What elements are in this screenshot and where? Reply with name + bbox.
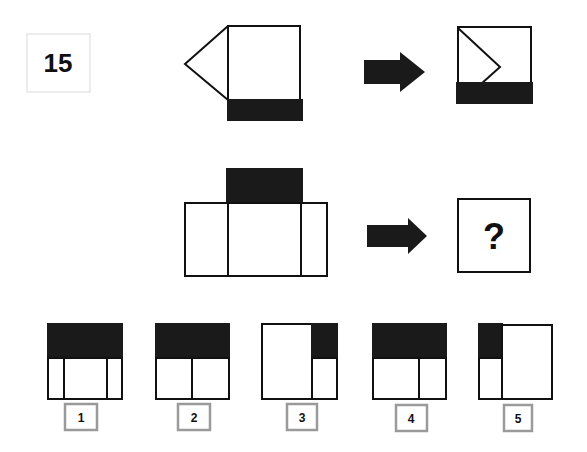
option-label: 5 xyxy=(515,412,522,426)
option-label: 3 xyxy=(299,411,306,425)
option-4[interactable]: 4 xyxy=(373,324,446,431)
option-1[interactable]: 1 xyxy=(48,324,122,430)
example-result-figure xyxy=(457,27,532,103)
puzzle-canvas: 15 ? 1 xyxy=(0,0,587,452)
answer-placeholder-box: ? xyxy=(458,199,530,272)
option-label: 2 xyxy=(191,411,198,425)
question-number: 15 xyxy=(44,48,73,78)
example-source-figure xyxy=(185,26,302,120)
option-2[interactable]: 2 xyxy=(156,324,229,430)
arrow-right-icon xyxy=(364,52,425,92)
option-5[interactable]: 5 xyxy=(479,324,552,431)
option-3[interactable]: 3 xyxy=(262,324,337,430)
question-mark: ? xyxy=(483,216,505,257)
option-label: 1 xyxy=(78,411,85,425)
question-number-box: 15 xyxy=(27,34,90,92)
option-label: 4 xyxy=(408,412,415,426)
arrow-right-icon xyxy=(367,218,427,254)
problem-figure xyxy=(185,169,327,276)
